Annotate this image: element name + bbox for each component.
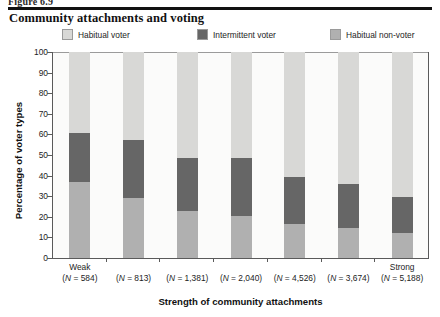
x-tick-mark xyxy=(374,258,375,262)
bar-segment[interactable] xyxy=(123,52,144,140)
bar-segment[interactable] xyxy=(177,211,198,258)
legend-swatch-icon xyxy=(62,29,73,40)
bar-segment[interactable] xyxy=(284,52,305,177)
bar-segment[interactable] xyxy=(123,140,144,199)
y-tick-mark xyxy=(47,134,52,135)
y-tick-label: 20 xyxy=(4,213,48,221)
bar-segment[interactable] xyxy=(338,184,359,228)
bar-group[interactable] xyxy=(177,52,198,258)
bar-segment[interactable] xyxy=(69,133,90,181)
y-tick-mark xyxy=(47,114,52,115)
x-tick-mark xyxy=(321,258,322,262)
x-tick-mark xyxy=(267,258,268,262)
y-tick-mark xyxy=(47,217,52,218)
bar-segment[interactable] xyxy=(392,233,413,258)
bar-group[interactable] xyxy=(123,52,144,258)
y-tick-mark xyxy=(47,155,52,156)
bar-series-container xyxy=(52,52,429,258)
chart-legend: Habitual voter Intermittent voter Habitu… xyxy=(0,29,440,43)
y-tick-label: 90 xyxy=(4,68,48,76)
bar-group[interactable] xyxy=(392,52,413,258)
bar-segment[interactable] xyxy=(177,158,198,211)
x-tick-label: Strong(N = 5,188) xyxy=(366,262,438,284)
legend-item-intermittent-voter: Intermittent voter xyxy=(197,29,276,40)
bar-segment[interactable] xyxy=(338,228,359,258)
y-tick-label: 100 xyxy=(4,48,48,56)
y-tick-label: 10 xyxy=(4,233,48,241)
y-axis-title: Percentage of voter types xyxy=(13,61,24,261)
bar-segment[interactable] xyxy=(338,52,359,184)
y-tick-label: 80 xyxy=(4,89,48,97)
x-tick-mark xyxy=(159,258,160,262)
bar-segment[interactable] xyxy=(392,52,413,197)
y-tick-mark xyxy=(47,258,52,259)
bar-segment[interactable] xyxy=(284,224,305,258)
bar-group[interactable] xyxy=(231,52,252,258)
bar-segment[interactable] xyxy=(231,52,252,158)
bar-segment[interactable] xyxy=(69,182,90,258)
bar-segment[interactable] xyxy=(69,52,90,133)
y-tick-label: 40 xyxy=(4,171,48,179)
legend-item-label: Habitual voter xyxy=(78,30,130,40)
y-tick-mark xyxy=(47,237,52,238)
bar-group[interactable] xyxy=(69,52,90,258)
y-tick-mark xyxy=(47,73,52,74)
bar-segment[interactable] xyxy=(231,158,252,216)
y-tick-mark xyxy=(47,176,52,177)
y-tick-mark xyxy=(47,196,52,197)
y-tick-label: 60 xyxy=(4,130,48,138)
y-tick-mark xyxy=(47,93,52,94)
y-tick-mark xyxy=(47,52,52,53)
x-tick-mark xyxy=(106,258,107,262)
bar-segment[interactable] xyxy=(231,216,252,258)
legend-swatch-icon xyxy=(330,29,341,40)
x-tick-mark xyxy=(213,258,214,262)
bar-segment[interactable] xyxy=(392,197,413,233)
x-axis-line xyxy=(52,258,429,259)
bar-segment[interactable] xyxy=(123,198,144,258)
y-tick-label: 0 xyxy=(4,254,48,262)
x-axis-title: Strength of community attachments xyxy=(52,296,429,307)
header-rule xyxy=(8,7,432,10)
legend-swatch-icon xyxy=(197,29,208,40)
bar-segment[interactable] xyxy=(177,52,198,158)
y-tick-label: 70 xyxy=(4,110,48,118)
y-tick-label: 30 xyxy=(4,192,48,200)
bar-group[interactable] xyxy=(284,52,305,258)
x-anchor-label: Strong xyxy=(366,262,438,273)
legend-item-label: Intermittent voter xyxy=(213,30,276,40)
bar-segment[interactable] xyxy=(284,177,305,224)
y-tick-label: 50 xyxy=(4,151,48,159)
bar-group[interactable] xyxy=(338,52,359,258)
legend-item-habitual-non-voter: Habitual non-voter xyxy=(330,29,414,40)
legend-item-label: Habitual non-voter xyxy=(346,30,414,40)
legend-item-habitual-voter: Habitual voter xyxy=(62,29,130,40)
x-sample-size-label: (N = 5,188) xyxy=(366,273,438,284)
